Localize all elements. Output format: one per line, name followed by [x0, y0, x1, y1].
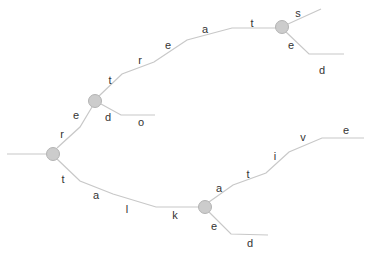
edge-letter-label: t — [246, 168, 249, 180]
edge-letter-label: e — [343, 124, 349, 136]
edge-letter-label: e — [165, 39, 171, 51]
edge-letter-label: v — [300, 131, 306, 143]
edge-letter-label: l — [126, 203, 128, 215]
edge-letter-label: o — [138, 116, 144, 128]
edge-t-r-e-a-t — [99, 28, 276, 96]
edge-letter-label: t — [108, 74, 111, 86]
edges-group — [7, 9, 364, 235]
edge-letter-label: a — [93, 189, 100, 201]
edge-letter-label: d — [105, 111, 111, 123]
edge-letter-label: t — [250, 17, 253, 29]
edge-letter-label: d — [319, 64, 325, 76]
edge-letter-label: k — [172, 209, 178, 221]
edge-a-t-i-v-e — [209, 138, 364, 202]
edge-letter-label: a — [216, 182, 223, 194]
edge-letter-label: e — [73, 109, 79, 121]
trie-diagram: retreatseddotalkativeed — [0, 0, 372, 254]
edge-letter-label: r — [138, 54, 142, 66]
edge-letter-label: t — [61, 173, 64, 185]
edge-e-d-top — [286, 32, 344, 54]
edge-letter-label: e — [288, 39, 294, 51]
edge-t-a-l-k — [57, 159, 199, 207]
trie-node — [47, 148, 60, 161]
trie-node — [199, 201, 212, 214]
edge-letter-label: s — [295, 7, 301, 19]
edge-e-d-bottom — [209, 212, 268, 235]
edge-s — [288, 9, 321, 24]
edge-letter-label: a — [202, 23, 209, 35]
edge-letter-label: d — [247, 237, 253, 249]
edge-letter-label: i — [274, 150, 276, 162]
trie-node — [276, 21, 289, 34]
edge-letter-label: e — [211, 220, 217, 232]
trie-node — [89, 95, 102, 108]
edge-letter-label: r — [60, 128, 64, 140]
